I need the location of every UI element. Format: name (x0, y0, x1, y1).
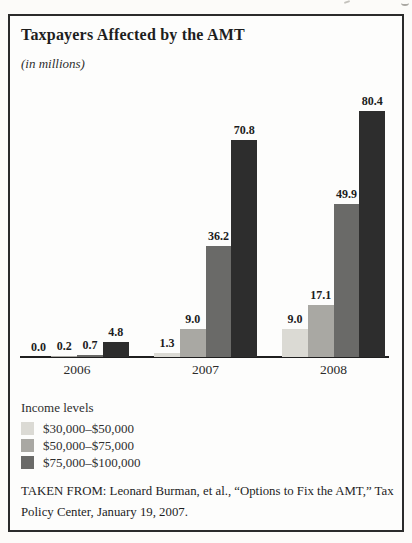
chart-title: Taxpayers Affected by the AMT (21, 26, 245, 44)
source-caption: TAKEN FROM: Leonard Burman, et al., “Opt… (21, 481, 393, 522)
legend-title: Income levels (21, 400, 141, 416)
page-edge-artifact (401, 0, 409, 6)
legend-item-label: $30,000–$50,000 (43, 421, 134, 437)
chart-units-subtitle: (in millions) (21, 56, 85, 72)
source-caption-line1: TAKEN FROM: Leonard Burman, et al., “Opt… (21, 481, 393, 502)
legend-item-2: $50,000–$75,000 (21, 439, 141, 452)
chart-legend: Income levels $30,000–$50,000$50,000–$75… (21, 400, 141, 473)
legend-swatch-icon (21, 456, 34, 469)
legend-item-1: $30,000–$50,000 (21, 422, 141, 435)
legend-item-label: $75,000–$100,000 (43, 455, 141, 471)
page-edge-artifact (344, 0, 350, 4)
legend-item-3: $75,000–$100,000 (21, 456, 141, 469)
legend-item-label: $50,000–$75,000 (43, 438, 134, 454)
legend-swatch-icon (21, 422, 34, 435)
legend-swatch-icon (21, 439, 34, 452)
source-caption-line2: Policy Center, January 19, 2007. (21, 502, 393, 523)
